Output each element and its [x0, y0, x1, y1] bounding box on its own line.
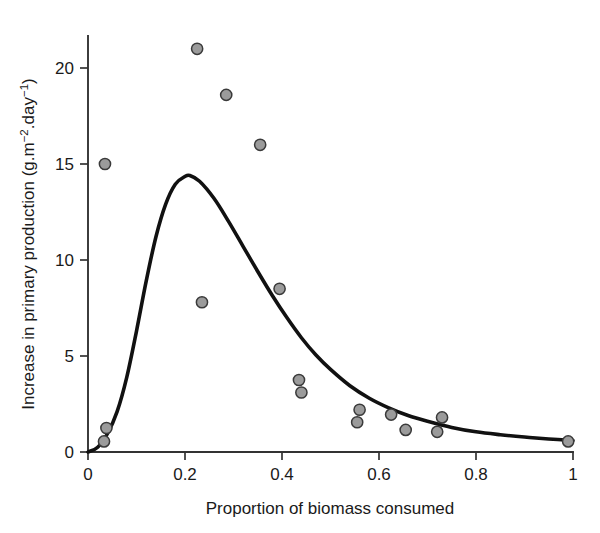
data-point [255, 139, 266, 150]
y-tick-label: 10 [55, 251, 74, 270]
y-axis-title-text: Increase in primary production (g.m−2.da… [18, 78, 38, 409]
figure-container: 05101520 00.20.40.60.81 Proportion of bi… [0, 0, 600, 533]
fitted-curve-group [88, 175, 573, 452]
y-axis-ticks [80, 68, 88, 452]
y-tick-label: 20 [55, 59, 74, 78]
data-point [196, 297, 207, 308]
data-point [99, 158, 110, 169]
data-point [296, 387, 307, 398]
data-point [293, 374, 304, 385]
data-point [400, 424, 411, 435]
data-points-group [98, 43, 573, 447]
data-point [274, 283, 285, 294]
data-point [192, 43, 203, 54]
data-point [221, 89, 232, 100]
x-axis-tick-labels: 00.20.40.60.81 [83, 465, 577, 484]
x-tick-label: 0.2 [173, 465, 197, 484]
data-point [436, 412, 447, 423]
data-point [386, 409, 397, 420]
data-point [563, 436, 574, 447]
x-axis-title: Proportion of biomass consumed [206, 499, 455, 518]
x-tick-label: 0.6 [367, 465, 391, 484]
x-tick-label: 0 [83, 465, 92, 484]
data-point [101, 422, 112, 433]
y-tick-label: 5 [65, 347, 74, 366]
x-axis-ticks [88, 452, 573, 460]
data-point [98, 436, 109, 447]
x-tick-label: 0.4 [270, 465, 294, 484]
y-axis-tick-labels: 05101520 [55, 59, 74, 462]
fitted-curve [88, 175, 573, 452]
x-axis-title-text: Proportion of biomass consumed [206, 499, 455, 518]
y-axis-title: Increase in primary production (g.m−2.da… [18, 78, 38, 409]
data-point [352, 417, 363, 428]
x-tick-label: 0.8 [464, 465, 488, 484]
y-tick-label: 0 [65, 443, 74, 462]
y-tick-label: 15 [55, 155, 74, 174]
data-point [432, 426, 443, 437]
data-point [354, 404, 365, 415]
scatter-plot: 05101520 00.20.40.60.81 Proportion of bi… [0, 0, 600, 533]
x-tick-label: 1 [568, 465, 577, 484]
